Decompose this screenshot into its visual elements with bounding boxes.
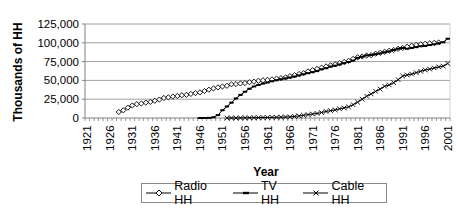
x-tick-label: 1956: [239, 125, 251, 151]
x-tick-label: 1936: [149, 125, 161, 151]
legend-item-tv: TV HH: [233, 179, 298, 207]
x-marker-icon: [303, 188, 328, 198]
y-axis-tick-labels: 025,00050,00075,000100,000125,000: [37, 18, 79, 124]
y-axis-title: Thousands of HH: [11, 22, 25, 121]
axes: [85, 24, 450, 121]
x-tick-label: 1996: [419, 125, 431, 151]
series-radio-hh: [116, 40, 441, 115]
x-tick-label: 1966: [284, 125, 296, 151]
x-tick-label: 1991: [397, 125, 409, 151]
y-tick-label: 0: [73, 112, 79, 124]
data-series: [116, 39, 450, 121]
x-tick-label: 1931: [126, 125, 138, 151]
y-tick-label: 75,000: [44, 56, 79, 68]
x-axis-title: Year: [253, 165, 279, 179]
series-cable-hh: [225, 61, 450, 120]
x-tick-label: 1941: [171, 125, 183, 151]
y-tick-label: 125,000: [37, 18, 79, 30]
x-tick-label: 1926: [104, 125, 116, 151]
legend-label: Radio HH: [174, 179, 227, 207]
x-tick-label: 1971: [307, 125, 319, 151]
legend-label: TV HH: [261, 179, 297, 207]
x-tick-label: 1976: [329, 125, 341, 151]
diamond-marker-icon: [146, 188, 171, 198]
legend-label: Cable HH: [331, 179, 384, 207]
legend-item-cable: Cable HH: [303, 179, 384, 207]
y-tick-label: 100,000: [37, 37, 79, 49]
series-tv-hh: [198, 39, 450, 118]
y-tick-label: 50,000: [44, 74, 79, 86]
x-tick-label: 1946: [194, 125, 206, 151]
legend: Radio HH TV HH Cable HH: [141, 183, 387, 203]
x-tick-label: 1981: [352, 125, 364, 151]
y-tick-label: 25,000: [44, 93, 79, 105]
legend-item-radio: Radio HH: [146, 179, 227, 207]
x-tick-label: 1951: [216, 125, 228, 151]
x-tick-label: 1921: [81, 125, 93, 151]
x-tick-label: 2001: [442, 125, 454, 151]
x-tick-label: 1986: [374, 125, 386, 151]
x-axis-tick-labels: 1921192619311936194119461951195619611966…: [81, 125, 453, 151]
dash-marker-icon: [233, 188, 258, 198]
x-tick-label: 1961: [262, 125, 274, 151]
